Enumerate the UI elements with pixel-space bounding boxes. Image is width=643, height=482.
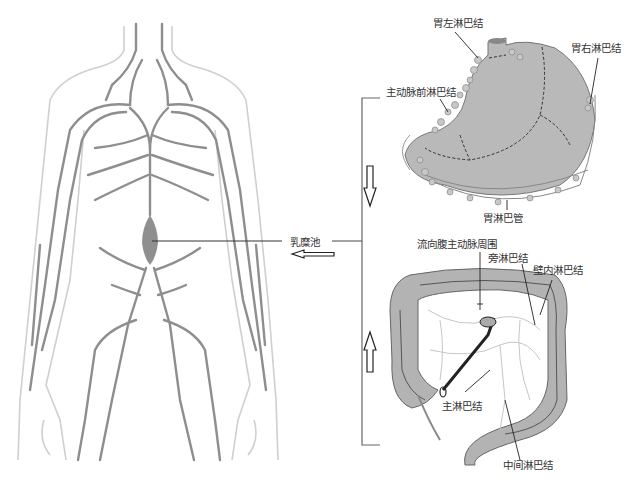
label-paracolic-nodes: 旁淋巴结 bbox=[488, 252, 528, 264]
diagram-canvas bbox=[0, 0, 643, 482]
arrow-up-icon bbox=[364, 332, 376, 372]
label-cisterna-chyli-text: 乳糜池 bbox=[290, 236, 320, 248]
label-gastric-lymph-vessels: 胃淋巴管 bbox=[483, 212, 523, 224]
label-intramural-nodes: 壁内淋巴结 bbox=[533, 264, 583, 276]
label-right-gastric-nodes: 胃右淋巴结 bbox=[571, 42, 621, 54]
label-main-nodes: 主淋巴结 bbox=[442, 400, 482, 412]
arrow-left-icon bbox=[292, 250, 334, 258]
colon-illustration bbox=[390, 269, 567, 466]
stomach-illustration bbox=[403, 38, 596, 205]
cisterna-chyli-shape bbox=[142, 215, 158, 265]
label-preaortic-nodes: 主动脉前淋巴结 bbox=[386, 86, 456, 98]
label-to-para-aortic: 流向腹主动脉周围 bbox=[417, 238, 497, 250]
label-intermediate-nodes: 中间淋巴结 bbox=[503, 459, 553, 471]
arrow-down-icon bbox=[364, 166, 376, 206]
label-left-gastric-nodes: 胃左淋巴结 bbox=[433, 17, 483, 29]
